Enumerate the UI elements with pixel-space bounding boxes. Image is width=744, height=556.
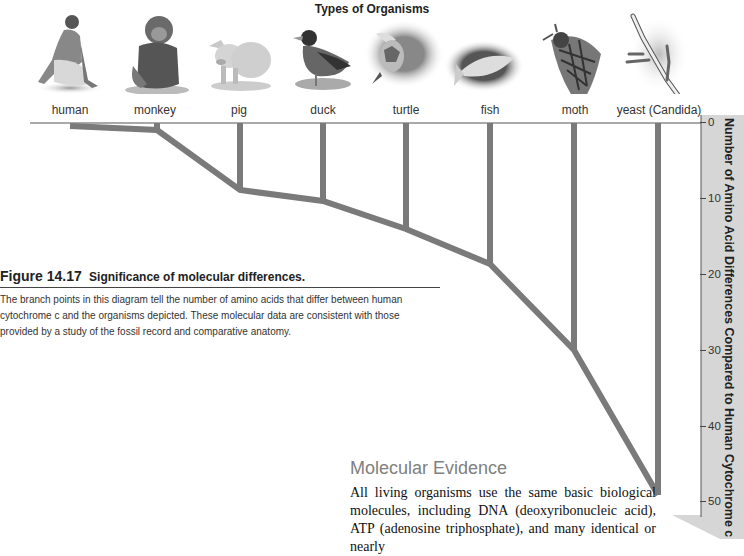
figure-title: Significance of molecular differences. — [89, 270, 305, 284]
figure-caption: Figure 14.17 Significance of molecular d… — [0, 268, 440, 340]
axis-tick-10: 10 — [700, 192, 721, 204]
figure-label: Figure 14.17 — [0, 268, 82, 284]
section-body: All living organisms use the same basic … — [350, 484, 656, 556]
axis-tick-50: 50 — [700, 495, 721, 507]
caption-body: The branch points in this diagram tell t… — [0, 292, 440, 340]
caption-heading: Figure 14.17 Significance of molecular d… — [0, 268, 440, 288]
axis-tick-40: 40 — [700, 420, 721, 432]
axis-tick-0: 0 — [700, 116, 714, 128]
section-heading: Molecular Evidence — [350, 458, 507, 479]
axis-title: Number of Amino Acid Differences Compare… — [722, 118, 736, 537]
axis-tick-20: 20 — [700, 268, 721, 280]
axis-tick-30: 30 — [700, 344, 721, 356]
